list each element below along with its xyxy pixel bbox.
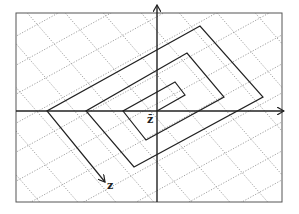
z-label: z xyxy=(107,180,113,191)
frame xyxy=(16,13,282,202)
spiral-path xyxy=(47,26,263,182)
diagram-canvas xyxy=(0,0,299,214)
dotted-grid xyxy=(0,0,299,214)
z-bar-label: z̄ xyxy=(147,114,153,125)
